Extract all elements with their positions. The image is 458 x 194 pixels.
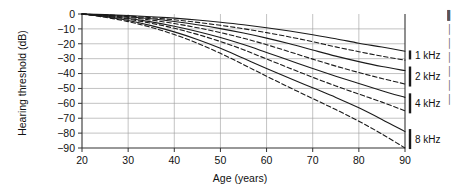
x-tick-label: 40 — [168, 154, 180, 166]
y-tick-label: −70 — [57, 112, 75, 124]
y-tick-label: −60 — [57, 97, 75, 109]
hearing-threshold-figure: 2030405060708090 0−10−20−30−40−50−60−70−… — [0, 0, 458, 194]
y-tick-label: −80 — [57, 127, 75, 139]
x-tick-label: 90 — [399, 154, 411, 166]
x-tick-label: 70 — [307, 154, 319, 166]
legend-label-4kHz: 4 kHz — [415, 98, 441, 109]
cropped-text-line: │ — [447, 36, 458, 50]
y-axis-title: Hearing threshold (dB) — [16, 13, 28, 153]
legend-label-8kHz: 8 kHz — [415, 134, 441, 145]
y-tick-label: −30 — [57, 52, 75, 64]
y-tick-marks — [78, 14, 82, 148]
y-tick-label: 0 — [69, 8, 75, 20]
cropped-text-line: │ — [447, 22, 458, 36]
hearing-threshold-chart: 2030405060708090 0−10−20−30−40−50−60−70−… — [0, 0, 458, 194]
y-tick-label: −10 — [57, 23, 75, 35]
y-tick-label: −40 — [57, 67, 75, 79]
cropped-text-line: ▌ — [447, 8, 458, 22]
cropped-adjacent-text: ▌││││││ — [447, 8, 458, 123]
frequency-legend: 1 kHz2 kHz4 kHz8 kHz — [410, 50, 441, 150]
x-tick-marks — [82, 148, 405, 152]
x-tick-labels: 2030405060708090 — [76, 154, 411, 166]
x-tick-label: 20 — [76, 154, 88, 166]
plot-area-background — [82, 14, 405, 148]
y-tick-label: −20 — [57, 38, 75, 50]
x-tick-label: 60 — [261, 154, 273, 166]
x-axis-title: Age (years) — [150, 172, 330, 184]
cropped-text-line: │ — [447, 78, 458, 92]
x-tick-label: 80 — [353, 154, 365, 166]
cropped-text-line: │ — [447, 50, 458, 64]
x-tick-label: 50 — [215, 154, 227, 166]
x-tick-label: 30 — [122, 154, 134, 166]
cropped-text-line: │ — [447, 64, 458, 78]
legend-label-2kHz: 2 kHz — [415, 71, 441, 82]
y-tick-labels: 0−10−20−30−40−50−60−70−80−90 — [57, 8, 75, 154]
cropped-text-line: │ — [447, 92, 458, 106]
legend-label-1kHz: 1 kHz — [415, 50, 441, 61]
y-tick-label: −50 — [57, 82, 75, 94]
y-tick-label: −90 — [57, 142, 75, 154]
